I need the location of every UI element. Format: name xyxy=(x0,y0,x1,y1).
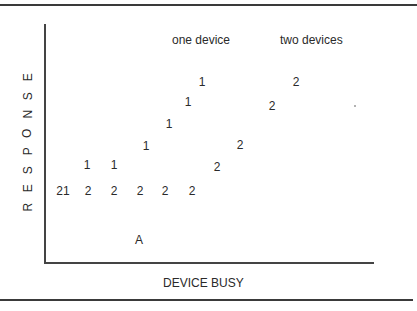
stray-dot xyxy=(354,105,356,107)
y-axis-letter: P xyxy=(19,147,38,155)
x-axis-line xyxy=(44,262,374,264)
y-axis-letter: S xyxy=(19,92,38,100)
x-axis-label: DEVICE BUSY xyxy=(163,277,244,289)
point-two-devices: 2 xyxy=(85,185,92,197)
point-one-device: 1 xyxy=(166,118,173,130)
y-axis-letter: O xyxy=(19,128,38,137)
y-axis-line xyxy=(44,24,46,263)
point-two-devices: 2 xyxy=(293,76,300,88)
point-two-devices: 2 xyxy=(189,185,196,197)
annotation-a: A xyxy=(135,234,143,246)
point-one-device: 1 xyxy=(199,76,206,88)
point-one-device: 1 xyxy=(185,96,192,108)
y-axis-letter: E xyxy=(19,184,38,192)
y-axis-letter: E xyxy=(19,73,38,81)
point-one-device: 1 xyxy=(84,159,91,171)
y-axis-letter: R xyxy=(19,202,38,211)
point-two-devices: 2 xyxy=(237,139,244,151)
bottom-rule xyxy=(0,299,413,301)
point-two-devices: 2 xyxy=(137,185,144,197)
legend-one-device: one device xyxy=(172,34,230,46)
legend-two-devices: two devices xyxy=(280,34,343,46)
point-two-devices: 2 xyxy=(269,100,276,112)
top-rule xyxy=(0,4,417,6)
y-axis-letter: S xyxy=(19,166,38,174)
point-one-device: 1 xyxy=(111,159,118,171)
point-one-device: 1 xyxy=(143,140,150,152)
y-axis-label: R E S P O N S E xyxy=(22,68,34,216)
point-two-devices: 2 xyxy=(214,161,221,173)
point-two-devices: 2 xyxy=(111,185,118,197)
y-axis-letter: N xyxy=(19,110,38,119)
point-two-devices: 2 xyxy=(162,185,169,197)
point-overlap-21: 21 xyxy=(56,185,69,197)
